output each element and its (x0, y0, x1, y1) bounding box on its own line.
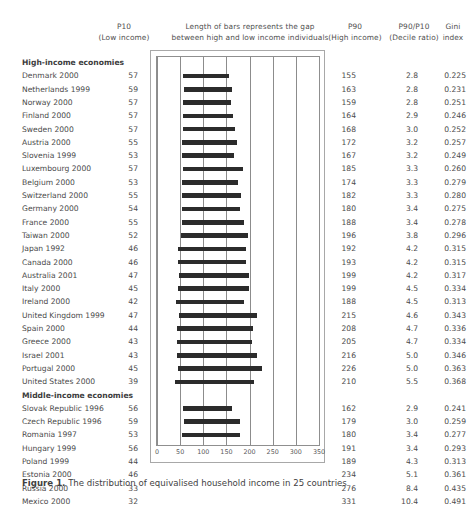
row-gini-value: 0.334 (436, 282, 466, 295)
x-axis-tick-label: 50 (176, 447, 184, 457)
row-decile-ratio-value: 3.4 (392, 216, 418, 229)
column-header-p10-line1: P10 (117, 22, 131, 31)
row-country-label: Ireland 2000 (22, 295, 70, 308)
row-p10-value: 59 (112, 83, 138, 96)
group-heading-row: Middle-income economies (0, 389, 473, 402)
row-gini-value: 0.334 (436, 335, 466, 348)
row-p90-value: 191 (330, 442, 356, 455)
row-p90-value: 180 (330, 428, 356, 441)
row-decile-ratio-value: 3.3 (392, 162, 418, 175)
row-gini-value: 0.343 (436, 309, 466, 322)
chart-header-note-line1: Length of bars represents the gap (185, 22, 314, 31)
row-country-label: Australia 2001 (22, 269, 77, 282)
row-p10-value: 56 (112, 442, 138, 455)
figure-caption: Figure 1. The distribution of equivalise… (22, 477, 452, 489)
row-p10-value: 47 (112, 269, 138, 282)
row-country-label: Greece 2000 (22, 335, 71, 348)
table-row: Austria 2000551723.20.257 (0, 136, 473, 149)
row-country-label: Japan 1992 (22, 242, 65, 255)
row-p10-value: 55 (112, 216, 138, 229)
table-row: Slovenia 1999531673.20.249 (0, 149, 473, 162)
row-country-label: Denmark 2000 (22, 69, 79, 82)
row-p90-value: 188 (330, 216, 356, 229)
row-country-label: Portugal 2000 (22, 362, 75, 375)
table-row: Romania 1997531803.40.277 (0, 428, 473, 441)
row-gini-value: 0.491 (436, 495, 466, 508)
column-header-gini-line2: index (433, 33, 473, 44)
row-gini-value: 0.259 (436, 415, 466, 428)
row-p10-value: 55 (112, 189, 138, 202)
table-row: United Kingdom 1999472154.60.343 (0, 309, 473, 322)
row-p90-value: 208 (330, 322, 356, 335)
row-p90-value: 210 (330, 375, 356, 388)
x-axis-tick-label: 300 (290, 447, 302, 457)
row-p90-value: 216 (330, 349, 356, 362)
row-gini-value: 0.368 (436, 375, 466, 388)
row-decile-ratio-value: 3.4 (392, 202, 418, 215)
row-gini-value: 0.296 (436, 229, 466, 242)
row-p10-value: 53 (112, 176, 138, 189)
row-decile-ratio-value: 4.2 (392, 269, 418, 282)
row-p90-value: 215 (330, 309, 356, 322)
row-gini-value: 0.260 (436, 162, 466, 175)
row-gini-value: 0.275 (436, 202, 466, 215)
column-header-gini: Gini index (433, 22, 473, 43)
table-row: United States 2000392105.50.368 (0, 375, 473, 388)
row-p90-value: 199 (330, 269, 356, 282)
row-p10-value: 44 (112, 322, 138, 335)
row-p10-value: 53 (112, 428, 138, 441)
x-axis-tick-label: 200 (243, 447, 255, 457)
row-country-label: Austria 2000 (22, 136, 71, 149)
row-p90-value: 168 (330, 123, 356, 136)
row-gini-value: 0.231 (436, 83, 466, 96)
row-country-label: France 2000 (22, 216, 69, 229)
row-p90-value: 182 (330, 189, 356, 202)
row-p90-value: 180 (330, 202, 356, 215)
row-decile-ratio-value: 3.8 (392, 229, 418, 242)
row-decile-ratio-value: 3.4 (392, 428, 418, 441)
group-heading-label: Middle-income economies (22, 389, 133, 402)
row-p90-value: 155 (330, 69, 356, 82)
table-row: Canada 2000461934.20.315 (0, 256, 473, 269)
row-gini-value: 0.313 (436, 295, 466, 308)
row-p10-value: 32 (112, 495, 138, 508)
row-country-label: Luxembourg 2000 (22, 162, 91, 175)
row-decile-ratio-value: 4.3 (392, 455, 418, 468)
row-decile-ratio-value: 4.5 (392, 282, 418, 295)
row-country-label: Spain 2000 (22, 322, 65, 335)
row-p90-value: 189 (330, 455, 356, 468)
row-p10-value: 42 (112, 295, 138, 308)
row-country-label: Italy 2000 (22, 282, 60, 295)
row-gini-value: 0.279 (436, 176, 466, 189)
x-axis-tick-label: 250 (267, 447, 279, 457)
table-row: Sweden 2000571683.00.252 (0, 123, 473, 136)
row-country-label: Taiwan 2000 (22, 229, 70, 242)
row-p90-value: 159 (330, 96, 356, 109)
row-p10-value: 47 (112, 309, 138, 322)
row-p90-value: 196 (330, 229, 356, 242)
x-axis: 050100150200250300350 (157, 447, 319, 461)
table-row: Luxembourg 2000571853.30.260 (0, 162, 473, 175)
table-row: Switzerland 2000551823.30.280 (0, 189, 473, 202)
row-p10-value: 46 (112, 256, 138, 269)
row-p90-value: 192 (330, 242, 356, 255)
group-heading-row: High-income economies (0, 56, 473, 69)
row-country-label: Czech Republic 1996 (22, 415, 102, 428)
table-row: Taiwan 2000521963.80.296 (0, 229, 473, 242)
row-decile-ratio-value: 4.7 (392, 322, 418, 335)
x-axis-tick-label: 150 (220, 447, 232, 457)
row-country-label: Switzerland 2000 (22, 189, 88, 202)
row-p90-value: 205 (330, 335, 356, 348)
row-p10-value: 52 (112, 229, 138, 242)
row-country-label: Germany 2000 (22, 202, 79, 215)
row-country-label: Hungary 1999 (22, 442, 76, 455)
row-decile-ratio-value: 5.0 (392, 349, 418, 362)
row-p10-value: 54 (112, 202, 138, 215)
row-p90-value: 162 (330, 402, 356, 415)
row-p10-value: 57 (112, 96, 138, 109)
table-row: Israel 2001432165.00.346 (0, 349, 473, 362)
row-gini-value: 0.346 (436, 349, 466, 362)
row-p90-value: 163 (330, 83, 356, 96)
row-gini-value: 0.246 (436, 109, 466, 122)
row-decile-ratio-value: 3.0 (392, 123, 418, 136)
